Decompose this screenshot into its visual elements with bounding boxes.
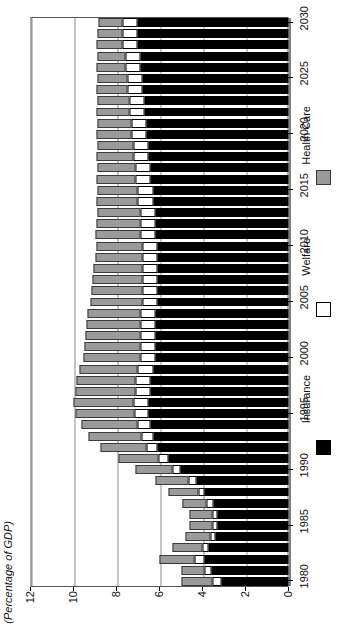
bar-segment-welfare [158,454,168,463]
bar-segment-insurance [180,465,288,474]
chart-figure: 0246810121980198519901995200020052010201… [0,0,341,628]
bar-segment-insurance [155,230,288,239]
bar-segment-insurance [146,119,288,128]
bar-segment-welfare [127,85,142,94]
bar-segment-welfare [125,52,140,61]
bar-segment-insurance [157,253,288,262]
legend-label-welfare: Welfare [300,238,312,276]
bar-1993 [88,432,288,441]
bar-segment-welfare [135,163,150,172]
bar-segment-welfare [206,499,212,508]
gridline-value-12 [31,18,32,586]
bar-segment-health [100,443,146,452]
bar-segment-welfare [135,175,150,184]
bar-2013 [97,208,288,217]
bar-segment-insurance [157,443,288,452]
bar-segment-health [87,309,140,318]
bar-segment-insurance [148,152,288,161]
value-tickmark-10 [73,587,74,591]
bar-segment-insurance [155,309,288,318]
bar-1999 [79,365,288,374]
bar-segment-welfare [142,275,157,284]
bar-segment-welfare [146,443,157,452]
bar-segment-health [76,376,135,385]
bar-segment-welfare [137,365,152,374]
bar-segment-insurance [217,510,288,519]
bar-segment-insurance [150,376,288,385]
bar-segment-health [97,186,138,195]
bar-2016 [96,175,288,184]
bar-1989 [155,476,288,485]
bar-2028 [96,40,288,49]
value-tick-0: 0 [282,591,294,597]
bar-segment-health [97,74,127,83]
bar-segment-insurance [153,186,288,195]
bar-segment-health [95,253,142,262]
bar-segment-welfare [137,197,152,206]
bar-2002 [85,331,288,340]
bar-segment-insurance [140,52,288,61]
bar-segment-insurance [204,488,288,497]
year-tick-1985: 1985 [298,509,310,533]
bar-2023 [97,96,288,105]
bar-segment-welfare [142,253,157,262]
bar-segment-insurance [153,432,288,441]
value-tickmark-4 [202,587,203,591]
bar-2011 [95,230,289,239]
bar-segment-welfare [135,376,150,385]
bar-segment-health [97,52,125,61]
bar-segment-insurance [148,409,288,418]
bar-segment-welfare [212,577,222,586]
value-tick-12: 12 [24,591,36,603]
bar-1980 [181,577,289,586]
year-tickmark-2015 [288,189,293,190]
value-tick-8: 8 [110,591,122,597]
bar-segment-welfare [127,74,142,83]
bar-segment-health [97,29,123,38]
bar-2015 [97,186,288,195]
bar-segment-health [75,409,134,418]
bar-segment-health [172,543,202,552]
bar-2027 [97,52,288,61]
bar-1987 [182,499,288,508]
bar-segment-welfare [140,309,155,318]
bar-segment-insurance [153,197,288,206]
bar-2029 [97,29,288,38]
bar-segment-insurance [150,163,288,172]
bar-segment-insurance [142,85,288,94]
bar-segment-insurance [148,398,288,407]
bar-segment-health [75,387,135,396]
bar-segment-health [85,331,140,340]
value-tickmark-12 [30,587,31,591]
bar-2025 [97,74,288,83]
bar-segment-welfare [140,353,155,362]
bar-segment-health [97,119,131,128]
bar-segment-insurance [157,275,288,284]
bar-2000 [83,353,288,362]
bar-1982 [159,555,288,564]
bar-segment-insurance [155,331,288,340]
bar-segment-health [95,230,140,239]
year-tickmark-1980 [288,580,293,581]
bar-segment-health [96,152,134,161]
bar-2026 [96,63,288,72]
bar-segment-welfare [125,63,140,72]
bar-segment-welfare [140,331,155,340]
bar-segment-insurance [215,532,288,541]
bar-2020 [96,130,288,139]
bar-segment-welfare [140,230,155,239]
bar-segment-health [182,499,207,508]
bar-2019 [97,141,288,150]
bar-segment-health [185,532,210,541]
bar-segment-welfare [142,242,157,251]
bar-segment-health [84,342,140,351]
year-tick-1990: 1990 [298,453,310,477]
bar-1981 [181,566,289,575]
legend-swatch-welfare [316,302,331,317]
year-tickmark-2005 [288,301,293,302]
value-tickmark-0 [288,587,289,591]
bar-segment-welfare [141,432,153,441]
bar-segment-welfare [137,420,150,429]
bar-segment-welfare [202,543,208,552]
bar-1986 [189,510,288,519]
